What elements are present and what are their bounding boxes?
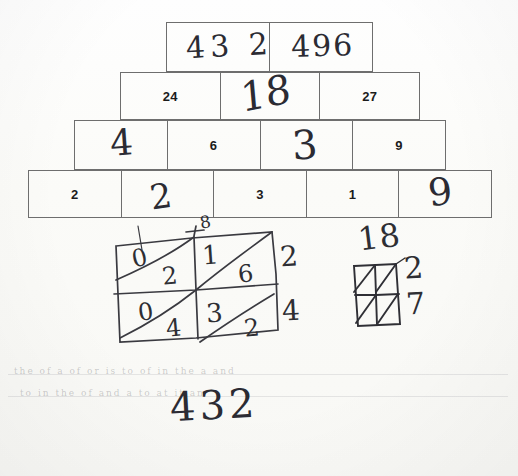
pyramid-hand-r3c1: 4 bbox=[109, 121, 135, 163]
lattice-main[interactable]: 8 0 2 1 6 0 4 3 2 2 4 bbox=[108, 218, 308, 358]
pyramid-hand-r3c3: 3 bbox=[290, 121, 319, 169]
lattice-cell-bottom-right-lower: 2 bbox=[243, 313, 261, 342]
pyramid-hand-r4c5: 9 bbox=[426, 169, 455, 215]
lattice-right-margin-1: 4 bbox=[281, 294, 301, 328]
pyramid-hand-r4c2: 2 bbox=[147, 175, 174, 218]
lattice-small-right-value-0: 2 bbox=[403, 249, 424, 285]
lattice-small[interactable]: 18 2 7 bbox=[348, 222, 458, 342]
pyramid-hand-r1c1: 43 2 bbox=[185, 26, 274, 65]
lattice-right-margin-0: 2 bbox=[279, 239, 299, 273]
lattice-cell-top-right-lower: 6 bbox=[236, 259, 255, 289]
lattice-small-right-value-1: 7 bbox=[405, 286, 426, 322]
pyramid-hand-r1c2: 496 bbox=[290, 27, 354, 64]
lattice-cell-top-right-upper: 1 bbox=[201, 239, 220, 270]
pyramid-hand-r2c2: 18 bbox=[238, 65, 292, 121]
lattice-main-drawing bbox=[108, 218, 308, 358]
lattice-cell-bottom-right-upper: 3 bbox=[205, 297, 224, 328]
lattice-cell-top-left-lower: 2 bbox=[161, 261, 179, 290]
lattice-small-drawing bbox=[348, 222, 458, 342]
lattice-cell-bottom-left-lower: 4 bbox=[165, 313, 183, 342]
